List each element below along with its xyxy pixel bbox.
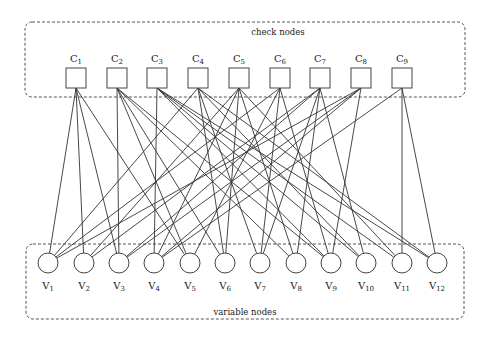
check-node-label: C7 (314, 53, 326, 66)
variable-node-label: V10 (357, 280, 374, 293)
check-node-label: C8 (355, 53, 367, 66)
check-node-square-icon[interactable] (392, 68, 412, 88)
variable-node-label: V3 (112, 280, 125, 293)
variable-node-v9[interactable]: V9 (321, 253, 341, 293)
edge-c3-v11 (157, 88, 394, 257)
variable-node-v8[interactable]: V8 (286, 253, 306, 293)
check-node-label: C3 (151, 53, 163, 66)
check-node-c8[interactable]: C8 (351, 53, 371, 88)
check-node-c7[interactable]: C7 (310, 53, 330, 88)
variable-node-label: V9 (324, 280, 337, 293)
variable-node-v7[interactable]: V7 (250, 253, 270, 293)
variable-node-label: V6 (218, 280, 231, 293)
bipartite-graph-svg: check nodes variable nodes C1C2C3C4C5C6C… (0, 0, 489, 340)
check-node-square-icon[interactable] (188, 68, 208, 88)
check-node-c9[interactable]: C9 (392, 53, 412, 88)
check-node-square-icon[interactable] (351, 68, 371, 88)
variable-node-v11[interactable]: V11 (392, 253, 412, 293)
check-node-c5[interactable]: C5 (229, 53, 249, 88)
variable-node-label: V5 (183, 280, 196, 293)
variable-node-circle-icon[interactable] (356, 253, 376, 273)
check-nodes: C1C2C3C4C5C6C7C8C9 (66, 53, 412, 88)
variable-node-circle-icon[interactable] (427, 253, 447, 273)
variable-node-circle-icon[interactable] (250, 253, 270, 273)
check-node-label: C4 (192, 53, 205, 66)
edge-c1-v1 (50, 88, 76, 253)
edge-c2-v3 (117, 88, 119, 253)
variable-node-label: V8 (289, 280, 302, 293)
variable-node-circle-icon[interactable] (180, 253, 200, 273)
check-node-label: C6 (274, 53, 287, 66)
variable-node-v6[interactable]: V6 (215, 253, 235, 293)
check-node-label: C9 (396, 53, 408, 66)
edge-c3-v10 (157, 88, 358, 257)
variable-node-v5[interactable]: V5 (180, 253, 200, 293)
check-nodes-label: check nodes (251, 27, 304, 37)
check-node-c6[interactable]: C6 (270, 53, 290, 88)
edge-c8-v1 (57, 88, 361, 258)
variable-node-circle-icon[interactable] (109, 253, 129, 273)
check-node-label: C1 (70, 53, 82, 66)
check-node-square-icon[interactable] (107, 68, 127, 88)
variable-node-v4[interactable]: V4 (144, 253, 164, 293)
variable-node-circle-icon[interactable] (74, 253, 94, 273)
edge-c9-v12 (402, 88, 435, 253)
check-node-square-icon[interactable] (147, 68, 167, 88)
edge-c8-v4 (162, 88, 361, 257)
edge-c3-v4 (154, 88, 157, 253)
edge-c6-v1 (56, 88, 280, 257)
check-node-c1[interactable]: C1 (66, 53, 86, 88)
variable-node-v2[interactable]: V2 (74, 253, 94, 293)
check-node-c2[interactable]: C2 (107, 53, 127, 88)
check-node-label: C2 (111, 53, 123, 66)
check-node-label: C5 (233, 53, 245, 66)
variable-node-circle-icon[interactable] (321, 253, 341, 273)
variable-node-circle-icon[interactable] (215, 253, 235, 273)
variable-node-circle-icon[interactable] (38, 253, 58, 273)
check-node-c4[interactable]: C4 (188, 53, 208, 88)
edge-c3-v9 (157, 88, 324, 256)
variable-node-label: V1 (41, 280, 54, 293)
variable-node-label: V11 (393, 280, 410, 293)
check-node-square-icon[interactable] (229, 68, 249, 88)
variable-node-v1[interactable]: V1 (38, 253, 58, 293)
check-node-square-icon[interactable] (66, 68, 86, 88)
variable-node-v3[interactable]: V3 (109, 253, 129, 293)
variable-node-label: V7 (253, 280, 266, 293)
variable-node-label: V4 (147, 280, 160, 293)
variable-node-label: V12 (428, 280, 445, 293)
variable-nodes: V1V2V3V4V5V6V7V8V9V10V11V12 (38, 253, 447, 293)
tanner-graph: check nodes variable nodes C1C2C3C4C5C6C… (0, 0, 489, 340)
edges (50, 88, 435, 258)
variable-node-v10[interactable]: V10 (356, 253, 376, 293)
check-node-square-icon[interactable] (270, 68, 290, 88)
variable-nodes-label: variable nodes (212, 307, 276, 317)
variable-node-circle-icon[interactable] (392, 253, 412, 273)
variable-node-circle-icon[interactable] (144, 253, 164, 273)
edge-c4-v10 (198, 88, 359, 256)
variable-node-v12[interactable]: V12 (427, 253, 447, 293)
check-node-c3[interactable]: C3 (147, 53, 167, 88)
check-node-square-icon[interactable] (310, 68, 330, 88)
edge-c8-v3 (127, 88, 361, 257)
variable-node-circle-icon[interactable] (286, 253, 306, 273)
variable-node-label: V2 (77, 280, 90, 293)
